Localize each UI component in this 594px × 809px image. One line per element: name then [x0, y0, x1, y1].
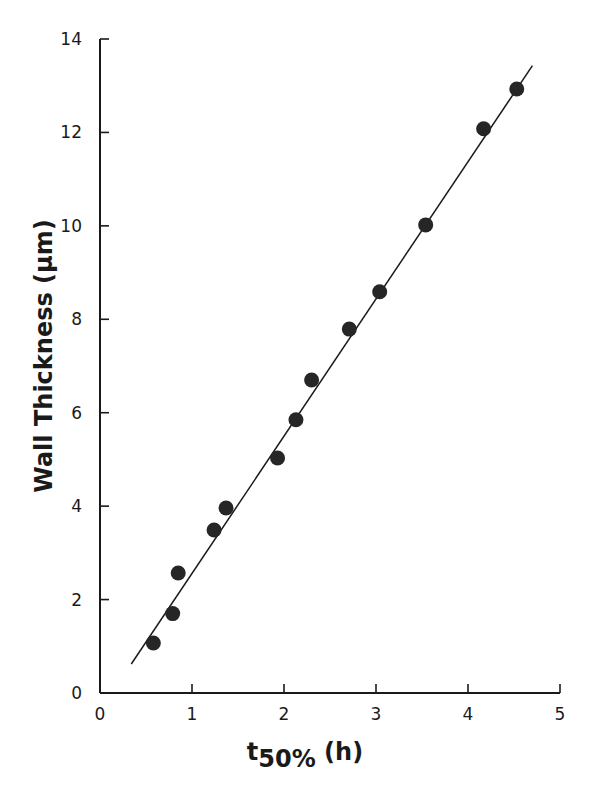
- fit-line: [131, 66, 532, 664]
- data-point: [372, 284, 387, 299]
- data-point: [219, 501, 234, 516]
- data-point: [146, 636, 161, 651]
- data-point: [207, 522, 222, 537]
- data-point: [476, 121, 491, 136]
- data-point: [288, 412, 303, 427]
- data-point: [342, 322, 357, 337]
- data-point: [509, 81, 524, 96]
- y-tick-label: 10: [60, 216, 82, 236]
- x-tick-label: 0: [95, 704, 106, 724]
- x-axis-title-subscript: 50%: [258, 745, 315, 773]
- x-axis-title-unit: (h): [316, 738, 363, 766]
- y-tick-label: 2: [71, 590, 82, 610]
- x-tick-label: 3: [371, 704, 382, 724]
- y-tick-label: 8: [71, 309, 82, 329]
- axes: [100, 39, 560, 693]
- data-point: [304, 373, 319, 388]
- y-tick-label: 6: [71, 403, 82, 423]
- x-tick-label: 1: [187, 704, 198, 724]
- data-point: [171, 565, 186, 580]
- y-tick-label: 12: [60, 122, 82, 142]
- x-tick-label: 2: [279, 704, 290, 724]
- data-point: [270, 451, 285, 466]
- x-tick-label: 5: [555, 704, 566, 724]
- y-tick-label: 4: [71, 496, 82, 516]
- x-tick-label: 4: [463, 704, 474, 724]
- y-tick-label: 14: [60, 29, 82, 49]
- scatter-chart: 01234502468101214 Wall Thickness (µm) t5…: [0, 0, 594, 809]
- fit-line-segment: [131, 66, 532, 664]
- figure-caption-cutoff: [0, 800, 594, 809]
- data-point: [165, 606, 180, 621]
- y-tick-label: 0: [71, 683, 82, 703]
- y-axis-title: Wall Thickness (µm): [30, 219, 58, 492]
- data-points: [146, 81, 524, 650]
- data-point: [418, 217, 433, 232]
- x-axis-title-main: t: [247, 738, 258, 766]
- x-axis-title: t50% (h): [247, 738, 363, 773]
